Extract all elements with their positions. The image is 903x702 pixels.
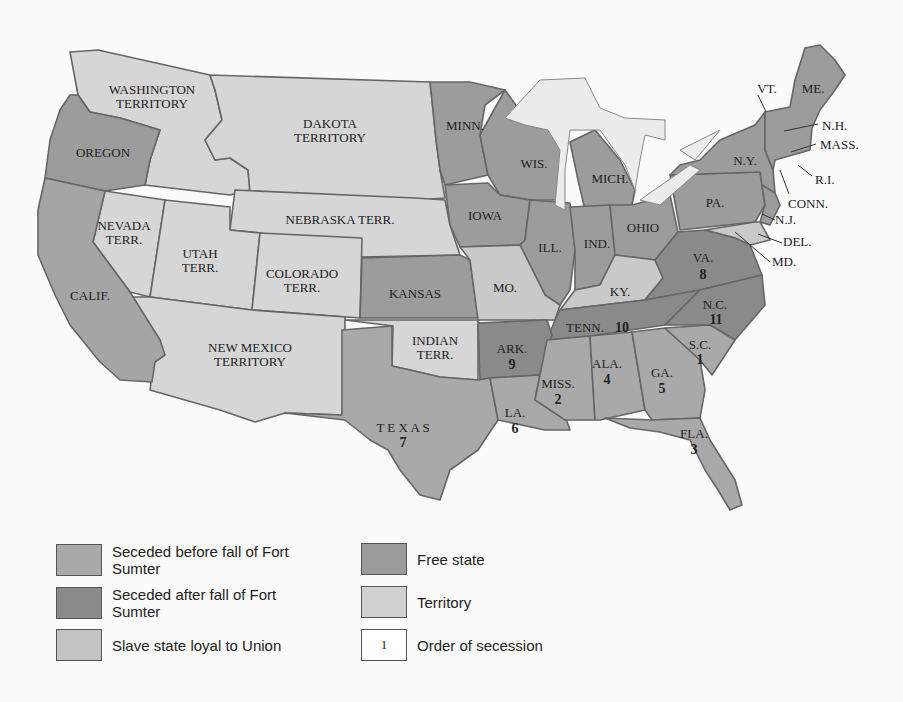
label-ill: ILL. xyxy=(538,240,561,255)
label-nebraska: NEBRASKA TERR. xyxy=(286,212,395,227)
label-ky: KY. xyxy=(610,284,630,299)
label-nh: N.H. xyxy=(822,118,847,133)
label-ala: ALA. xyxy=(592,356,622,371)
label-fla: FLA. xyxy=(680,426,708,441)
swatch-seceded-after xyxy=(56,587,102,619)
swatch-seceded-before xyxy=(56,544,102,576)
label-nc: N.C. xyxy=(703,297,728,312)
order-ala: 4 xyxy=(604,372,611,387)
label-indian-1: INDIAN xyxy=(412,333,459,348)
label-va: VA. xyxy=(693,250,713,265)
label-kansas: KANSAS xyxy=(389,286,441,301)
swatch-slave-loyal xyxy=(56,629,102,661)
legend-item-seceded-after: Seceded after fall of Fort Sumter xyxy=(56,586,312,620)
order-va: 8 xyxy=(700,267,707,282)
region-florida xyxy=(605,418,742,510)
label-new-mexico-1: NEW MEXICO xyxy=(208,340,292,355)
label-ga: GA. xyxy=(651,365,673,380)
label-miss: MISS. xyxy=(541,376,575,391)
label-conn: CONN. xyxy=(788,196,828,211)
label-nevada-2: TERR. xyxy=(106,232,142,247)
legend-item-slave-loyal: Slave state loyal to Union xyxy=(56,629,372,661)
label-del: DEL. xyxy=(783,234,812,249)
label-mich: MICH. xyxy=(591,171,628,186)
legend-label: Order of secession xyxy=(417,637,617,654)
label-mo: MO. xyxy=(493,280,517,295)
label-dakota-1: DAKOTA xyxy=(303,116,357,131)
label-ohio: OHIO xyxy=(627,220,660,235)
label-ark: ARK. xyxy=(497,341,528,356)
label-colorado-2: TERR. xyxy=(284,280,320,295)
label-minn: MINN. xyxy=(446,118,484,133)
label-mass: MASS. xyxy=(820,137,859,152)
label-indian-2: TERR. xyxy=(417,347,453,362)
legend-item-free-state: Free state xyxy=(361,543,617,575)
label-pa: PA. xyxy=(706,195,725,210)
label-texas: T E X A S xyxy=(376,420,429,435)
label-ind: IND. xyxy=(584,236,610,251)
swatch-order: 1 xyxy=(361,629,407,661)
label-sc: S.C. xyxy=(689,337,711,352)
label-ri: R.I. xyxy=(815,172,835,187)
label-new-mexico-2: TERRITORY xyxy=(214,354,287,369)
label-calif: CALIF. xyxy=(70,288,110,303)
legend-item-territory: Territory xyxy=(361,586,617,618)
label-utah-1: UTAH xyxy=(182,246,217,261)
legend-label: Slave state loyal to Union xyxy=(112,637,372,654)
legend-label: Seceded before fall of Fort Sumter xyxy=(112,543,312,577)
order-ga: 5 xyxy=(659,381,666,396)
label-tenn: TENN. xyxy=(566,320,604,335)
map-legend: Seceded before fall of Fort Sumter Seced… xyxy=(56,543,856,683)
swatch-free-state xyxy=(361,543,407,575)
legend-item-order: 1 Order of secession xyxy=(361,629,617,661)
order-tenn: 10 xyxy=(615,320,629,335)
order-ark: 9 xyxy=(509,357,516,372)
swatch-territory xyxy=(361,586,407,618)
label-dakota-2: TERRITORY xyxy=(294,130,367,145)
label-nj: N.J. xyxy=(775,212,796,227)
order-la: 6 xyxy=(512,421,519,436)
legend-label: Seceded after fall of Fort Sumter xyxy=(112,586,312,620)
order-fla: 3 xyxy=(691,442,698,457)
label-md: MD. xyxy=(772,254,796,269)
order-sc: 1 xyxy=(697,352,704,367)
label-wis: WIS. xyxy=(520,156,547,171)
label-colorado-1: COLORADO xyxy=(266,266,338,281)
label-ny: N.Y. xyxy=(733,153,757,168)
label-oregon: OREGON xyxy=(76,145,131,160)
label-iowa: IOWA xyxy=(468,208,503,223)
order-nc: 11 xyxy=(709,312,722,327)
label-me: ME. xyxy=(802,81,825,96)
civil-war-secession-map: WASHINGTON TERRITORY OREGON DAKOTA TERRI… xyxy=(0,0,903,520)
label-nevada-1: NEVADA xyxy=(97,218,151,233)
order-texas: 7 xyxy=(400,435,407,450)
label-utah-2: TERR. xyxy=(182,260,218,275)
label-vt: VT. xyxy=(757,81,777,96)
legend-label: Territory xyxy=(417,594,617,611)
legend-item-seceded-before: Seceded before fall of Fort Sumter xyxy=(56,543,312,577)
order-miss: 2 xyxy=(555,392,562,407)
label-la: LA. xyxy=(505,405,526,420)
label-washington-1: WASHINGTON xyxy=(109,82,196,97)
label-washington-2: TERRITORY xyxy=(116,96,189,111)
legend-label: Free state xyxy=(417,551,617,568)
